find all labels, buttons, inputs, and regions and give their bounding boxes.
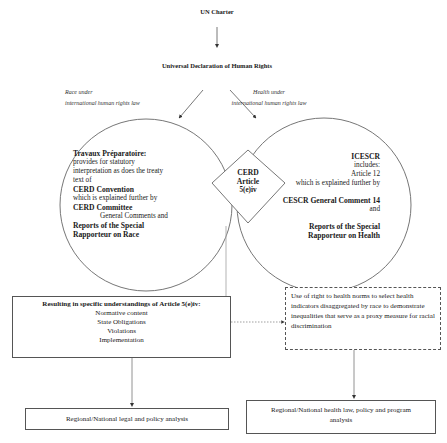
- health-label: Health under international human rights …: [223, 89, 315, 106]
- specific-understandings-box: Resulting in specific understandings of …: [12, 296, 231, 358]
- diamond-line2: Article: [223, 178, 273, 187]
- travaux-heading: Travaux Préparatoire:: [73, 149, 198, 158]
- diamond-line3: 5(e)iv: [223, 186, 273, 195]
- right-line4: which is explained further by: [268, 179, 380, 188]
- udhr-label: Universal Declaration of Human Rights: [117, 62, 317, 69]
- health-indicators-text: Use of right to health norms to select h…: [291, 292, 435, 330]
- left-line8: General Comments and: [73, 212, 198, 221]
- icescr-heading: ICESCR: [268, 152, 380, 161]
- right-circle-text: ICESCR includes: Article 12 which is exp…: [268, 152, 380, 240]
- cerd-convention: CERD Convention: [73, 185, 198, 194]
- cerd-article-diamond: CERD Article 5(e)iv: [223, 169, 273, 195]
- left-circle-text: Travaux Préparatoire: provides for statu…: [73, 149, 198, 239]
- understanding-item: Normative content: [13, 309, 230, 318]
- health-law-analysis-label: Regional/National health law, policy and…: [271, 406, 411, 424]
- left-line2: provides for statutory: [73, 158, 198, 167]
- left-line9: Reports of the Special: [73, 221, 198, 230]
- health-indicators-box: Use of right to health norms to select h…: [285, 287, 441, 350]
- left-line3: interpretation as does the treaty: [73, 167, 198, 176]
- right-line6: and: [268, 205, 380, 214]
- race-label-line1: Race under: [65, 89, 140, 95]
- un-charter-label: UN Charter: [167, 8, 267, 15]
- right-line2: includes:: [268, 161, 380, 170]
- right-line8: Rapporteur on Health: [268, 231, 380, 240]
- left-line10: Rapporteur on Race: [73, 230, 198, 239]
- right-line3: Article 12: [268, 170, 380, 179]
- race-label: Race under international human rights la…: [65, 89, 140, 106]
- left-line4: text of: [73, 176, 198, 185]
- understanding-item: Implementation: [13, 336, 230, 345]
- understanding-item: State Obligations: [13, 318, 230, 327]
- health-label-line1: Health under: [223, 89, 315, 95]
- legal-policy-analysis-box: Regional/National legal and policy analy…: [25, 408, 229, 430]
- understanding-item: Violations: [13, 327, 230, 336]
- cescr-gc14: CESCR General Comment 14: [268, 196, 380, 205]
- legal-policy-analysis-label: Regional/National legal and policy analy…: [66, 415, 188, 423]
- health-label-line2: international human rights law: [223, 100, 315, 106]
- race-label-line2: international human rights law: [65, 100, 140, 106]
- right-line7: Reports of the Special: [268, 222, 380, 231]
- cerd-committee: CERD Committee: [73, 203, 198, 212]
- understandings-title: Resulting in specific understandings of …: [13, 300, 230, 309]
- health-law-analysis-box: Regional/National health law, policy and…: [246, 400, 436, 434]
- left-line6: which is explained further by: [73, 194, 198, 203]
